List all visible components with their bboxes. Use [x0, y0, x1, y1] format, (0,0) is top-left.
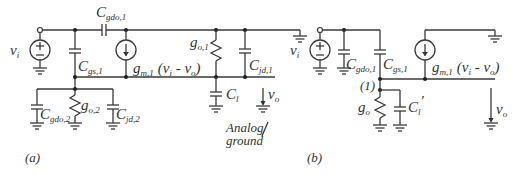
caption-b: (b): [307, 150, 322, 165]
label-cgdo1: Cgdo,1: [96, 4, 126, 22]
label-cl-prime: Cl′: [408, 93, 425, 117]
circuit-figure: vi Cgdo,1 Cgs,1 gm,1(vi - vo) go,1 Cjd,1…: [0, 0, 515, 175]
label-node-1: (1): [360, 78, 375, 93]
label-cgs1: Cgs,1: [78, 58, 103, 76]
label-vi: vi: [10, 42, 20, 60]
capacitor-cl-icon: [209, 77, 223, 112]
voltage-source-icon: [30, 28, 50, 75]
label-cjd2: Cjd,2: [116, 106, 140, 124]
label-gm1: gm,1(vi - vo): [432, 59, 500, 77]
resistor-go-icon: [373, 90, 387, 131]
resistor-go1-icon: [211, 30, 221, 77]
label-ground: ground: [226, 133, 264, 148]
label-vi: vi: [290, 42, 300, 60]
label-cgs1: Cgs,1: [383, 56, 408, 74]
label-gm1: gm,1(vi - vo): [133, 60, 201, 78]
caption-a: (a): [25, 150, 40, 165]
panel-b: vi Cgdo,1 Cgs,1 (1) gm,1(vi - vo) go Cl′…: [290, 28, 508, 166]
label-vo: vo: [496, 101, 508, 119]
label-cgdo1: Cgdo,1: [346, 56, 376, 74]
label-cl: Cl: [226, 86, 239, 104]
label-go2: go,2: [81, 97, 100, 115]
label-cgdo2: Cgdo,2: [40, 106, 71, 124]
label-go1: go,1: [190, 34, 209, 52]
label-vo: vo: [268, 86, 280, 104]
capacitor-cl-prime-icon: [393, 90, 407, 131]
voltage-source-icon: [310, 28, 330, 75]
label-cjd1: Cjd,1: [249, 57, 273, 75]
panel-a: vi Cgdo,1 Cgs,1 gm,1(vi - vo) go,1 Cjd,1…: [10, 4, 307, 165]
capacitor-cgdo1-icon: [102, 24, 106, 36]
label-go: go: [358, 99, 371, 117]
small-signal-schematics: vi Cgdo,1 Cgs,1 gm,1(vi - vo) go,1 Cjd,1…: [0, 0, 515, 175]
